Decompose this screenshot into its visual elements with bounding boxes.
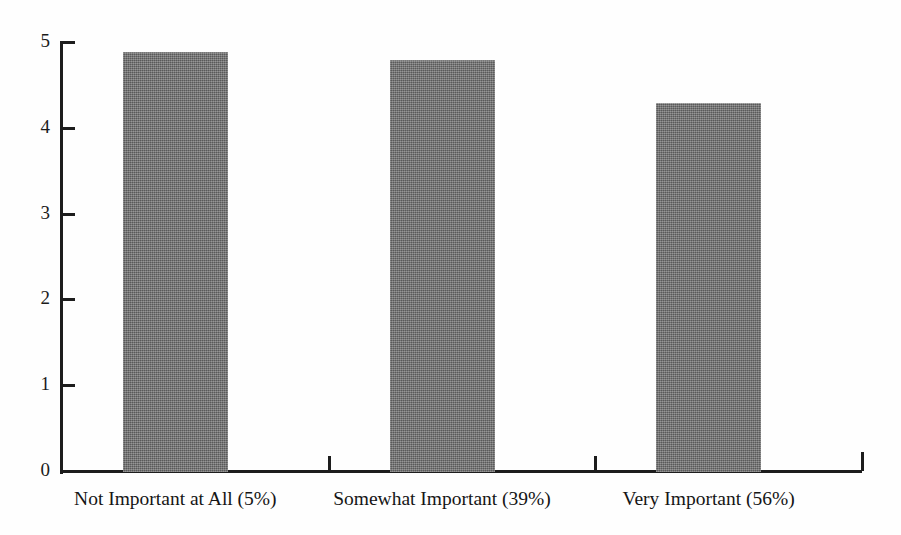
y-axis-tick-label: 5 — [0, 31, 50, 51]
bar-2 — [390, 60, 495, 472]
y-axis-tick-label: 1 — [0, 374, 50, 394]
y-axis-tick-label-text: 3 — [24, 203, 50, 222]
bar-chart: 012345 Not Important at All (5%)Somewhat… — [0, 0, 901, 535]
x-axis-category-label-3: Very Important (56%) — [549, 487, 869, 511]
bar-3 — [656, 103, 761, 472]
y-axis-tick-label: 4 — [0, 117, 50, 137]
y-axis-tick-label: 2 — [0, 288, 50, 308]
y-axis-tick-label-text: 2 — [24, 288, 50, 307]
y-axis-tick-label-text: 1 — [24, 374, 50, 393]
y-axis-tick-label: 3 — [0, 203, 50, 223]
y-axis-tick-label-text: 0 — [24, 460, 50, 479]
y-axis-tick-label-text: 4 — [24, 117, 50, 136]
y-axis-tick-label: 0 — [0, 460, 50, 480]
y-axis-tick-label-text: 5 — [24, 31, 50, 50]
plot-area — [62, 42, 862, 472]
bar-1 — [123, 52, 228, 472]
